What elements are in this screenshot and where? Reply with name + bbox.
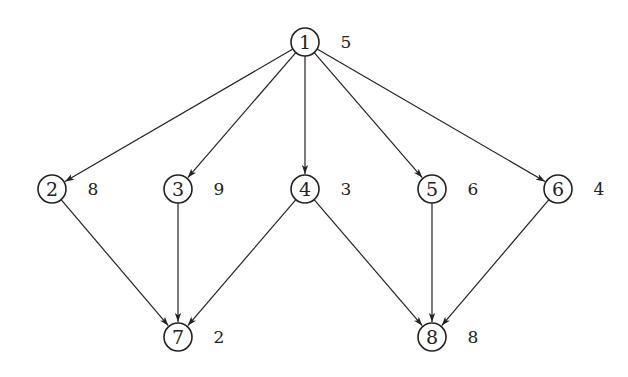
node-3: 39 <box>164 175 224 203</box>
node-weight-label: 2 <box>214 327 225 347</box>
node-6: 64 <box>544 175 604 203</box>
edge-6-to-8 <box>442 200 549 326</box>
node-weight-label: 3 <box>341 179 352 199</box>
node-4: 43 <box>291 175 351 203</box>
node-5: 56 <box>418 175 478 203</box>
nodes-layer: 1528394356647288 <box>38 28 604 351</box>
node-label: 7 <box>172 326 184 348</box>
node-label: 8 <box>426 326 438 348</box>
node-label: 5 <box>426 178 438 200</box>
edge-1-to-6 <box>317 49 545 182</box>
edge-1-to-2 <box>65 49 293 182</box>
node-7: 72 <box>164 323 224 351</box>
node-label: 4 <box>299 178 311 200</box>
graph-diagram: 1528394356647288 <box>0 0 628 377</box>
node-weight-label: 4 <box>594 179 605 199</box>
node-8: 88 <box>418 323 478 351</box>
node-weight-label: 8 <box>468 327 479 347</box>
edge-2-to-7 <box>61 200 168 326</box>
edge-1-to-5 <box>314 53 422 178</box>
edge-1-to-3 <box>188 53 296 178</box>
node-weight-label: 9 <box>214 179 225 199</box>
graph-canvas: 1528394356647288 <box>0 0 628 377</box>
node-weight-label: 6 <box>468 179 479 199</box>
node-label: 1 <box>299 31 311 53</box>
node-weight-label: 5 <box>341 32 352 52</box>
node-label: 2 <box>46 178 58 200</box>
node-label: 3 <box>172 178 184 200</box>
node-label: 6 <box>552 178 564 200</box>
edge-4-to-8 <box>314 200 422 326</box>
edge-4-to-7 <box>188 200 296 326</box>
node-weight-label: 8 <box>88 179 99 199</box>
